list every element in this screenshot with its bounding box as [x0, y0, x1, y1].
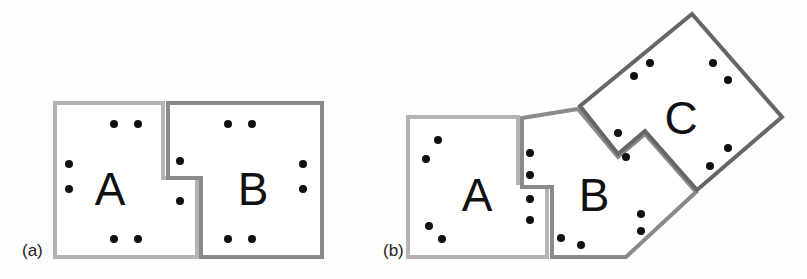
dot	[425, 222, 433, 230]
dot	[248, 235, 256, 243]
dot	[724, 76, 732, 84]
dot	[630, 72, 638, 80]
dot	[134, 235, 142, 243]
panel-a-label-a: A	[95, 163, 126, 215]
dot	[248, 120, 256, 128]
dot	[577, 241, 585, 249]
dot	[65, 185, 73, 193]
dot	[526, 195, 534, 203]
dot	[299, 160, 307, 168]
dot	[434, 136, 442, 144]
diagram-canvas: A B (a) A B C	[0, 0, 807, 279]
dot	[526, 216, 534, 224]
dot	[706, 162, 714, 170]
dot	[134, 120, 142, 128]
dot	[526, 171, 534, 179]
panel-a-label-b: B	[238, 163, 269, 215]
dot	[526, 149, 534, 157]
dot	[422, 155, 430, 163]
dot	[709, 59, 717, 67]
dot	[724, 144, 732, 152]
dot	[110, 235, 118, 243]
dot	[176, 197, 184, 205]
panel-b: A B C (b)	[383, 14, 782, 260]
panel-b-label-c: C	[664, 92, 697, 144]
dot	[438, 235, 446, 243]
dot	[224, 120, 232, 128]
panel-b-label-b: B	[579, 169, 610, 221]
dot	[176, 157, 184, 165]
panel-b-label-a: A	[462, 169, 493, 221]
dot	[622, 153, 630, 161]
panel-a-caption: (a)	[22, 241, 43, 260]
panel-a: A B (a)	[22, 103, 322, 260]
dot	[557, 234, 565, 242]
dot	[646, 59, 654, 67]
diagram-svg: A B (a) A B C	[0, 0, 807, 279]
dot	[110, 120, 118, 128]
dot	[299, 185, 307, 193]
dot	[65, 160, 73, 168]
panel-b-caption: (b)	[383, 241, 404, 260]
dot	[637, 210, 645, 218]
dot	[614, 129, 622, 137]
dot	[637, 227, 645, 235]
dot	[224, 235, 232, 243]
